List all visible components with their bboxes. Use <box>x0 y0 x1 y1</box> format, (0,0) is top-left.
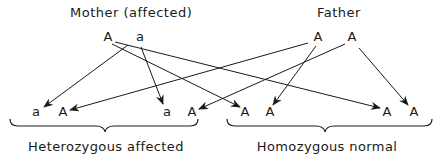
heterozygous-affected-label: Heterozygous affected <box>28 139 184 154</box>
father-allele-1: A <box>314 30 323 43</box>
arrow-father-A1-to-child3-A <box>273 46 316 105</box>
brace-homozygous <box>227 119 432 132</box>
father-allele-2: A <box>348 30 357 43</box>
child4-allele-2: A <box>410 105 419 118</box>
child2-allele-2: A <box>188 105 197 118</box>
mother-allele-1: A <box>104 30 113 43</box>
inheritance-diagram-lines <box>0 0 445 161</box>
homozygous-normal-label: Homozygous normal <box>257 139 398 154</box>
arrow-father-A2-to-child2-A <box>199 44 345 109</box>
brace-heterozygous <box>10 119 198 132</box>
child3-allele-1: A <box>241 105 250 118</box>
arrow-mother-A-to-child4-A <box>115 42 380 108</box>
mother-label: Mother (affected) <box>70 5 192 20</box>
child4-allele-1: A <box>383 105 392 118</box>
arrow-father-A2-to-child4-A <box>359 48 408 105</box>
father-label: Father <box>317 5 361 20</box>
arrow-mother-a-to-child2-a <box>141 47 163 104</box>
child1-allele-1: a <box>32 105 40 118</box>
child1-allele-2: A <box>59 105 68 118</box>
mother-allele-2: a <box>136 30 144 43</box>
child3-allele-2: A <box>266 105 275 118</box>
arrow-mother-A-to-child3-A <box>112 44 240 107</box>
child2-allele-1: a <box>163 105 171 118</box>
